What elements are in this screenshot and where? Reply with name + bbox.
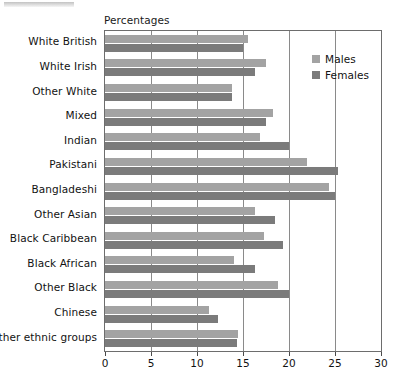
- tick-label: 0: [102, 357, 109, 369]
- bar-males: [105, 256, 234, 264]
- category-label: Other White: [32, 85, 97, 97]
- females-swatch: [312, 71, 320, 79]
- category-label: Pakistani: [49, 158, 97, 170]
- bar-females: [105, 290, 289, 298]
- bar-females: [105, 339, 237, 347]
- bar-males: [105, 133, 260, 141]
- bar-females: [105, 265, 255, 273]
- tick-label: 20: [282, 357, 295, 369]
- legend-label: Males: [325, 53, 356, 65]
- legend: MalesFemales: [312, 52, 369, 84]
- bar-females: [105, 315, 218, 323]
- legend-label: Females: [325, 69, 369, 81]
- category-label: Other Asian: [34, 208, 97, 220]
- bar-males: [105, 183, 329, 191]
- bar-females: [105, 44, 243, 52]
- bar-males: [105, 84, 232, 92]
- bar-males: [105, 281, 278, 289]
- category-label: Black African: [27, 257, 97, 269]
- bar-males: [105, 158, 307, 166]
- category-label: Chinese: [54, 306, 97, 318]
- tick-label: 10: [190, 357, 203, 369]
- category-label: Other ethnic groups: [0, 331, 97, 343]
- category-axis-labels: White BritishWhite IrishOther WhiteMixed…: [0, 30, 100, 352]
- bar-males: [105, 232, 264, 240]
- bar-females: [105, 192, 335, 200]
- tick-mark: [381, 352, 382, 356]
- category-label: Other Black: [34, 281, 97, 293]
- tick-mark: [151, 352, 152, 356]
- bar-females: [105, 118, 266, 126]
- bar-females: [105, 241, 283, 249]
- bar-males: [105, 109, 273, 117]
- tick-mark: [105, 352, 106, 356]
- bar-males: [105, 35, 248, 43]
- tick-mark: [243, 352, 244, 356]
- tick-label: 30: [374, 357, 387, 369]
- bar-females: [105, 68, 255, 76]
- legend-item: Females: [312, 68, 369, 82]
- grouped-bar-chart: Percentages White BritishWhite IrishOthe…: [0, 0, 406, 384]
- category-label: Mixed: [66, 109, 98, 121]
- bar-males: [105, 306, 209, 314]
- tick-label: 5: [148, 357, 155, 369]
- category-label: White British: [28, 35, 97, 47]
- tick-mark: [289, 352, 290, 356]
- tick-label: 25: [328, 357, 341, 369]
- tick-mark: [197, 352, 198, 356]
- category-label: Indian: [64, 134, 97, 146]
- bar-females: [105, 142, 289, 150]
- males-swatch: [312, 55, 320, 63]
- axis-title: Percentages: [104, 14, 170, 26]
- category-label: White Irish: [40, 60, 97, 72]
- bar-males: [105, 330, 238, 338]
- bar-females: [105, 93, 232, 101]
- bar-males: [105, 59, 266, 67]
- bar-females: [105, 167, 338, 175]
- category-label: Bangladeshi: [31, 183, 97, 195]
- category-label: Black Caribbean: [10, 232, 97, 244]
- tick-mark: [335, 352, 336, 356]
- legend-item: Males: [312, 52, 369, 66]
- bar-males: [105, 207, 255, 215]
- value-axis: 051015202530: [0, 352, 406, 382]
- tick-label: 15: [236, 357, 249, 369]
- bar-females: [105, 216, 275, 224]
